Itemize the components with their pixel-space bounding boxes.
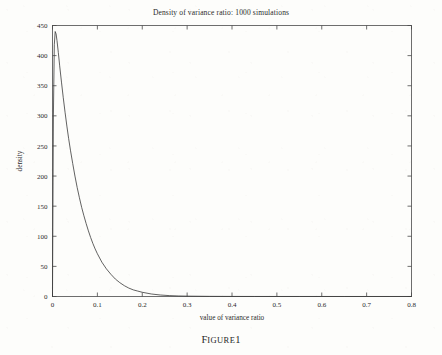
x-axis-title: value of variance ratio xyxy=(200,314,265,322)
x-tick-label: 0.2 xyxy=(138,301,147,309)
x-tick-label: 0.5 xyxy=(273,301,282,309)
y-tick-label: 250 xyxy=(37,143,48,151)
x-tick-label: 0 xyxy=(51,301,55,309)
x-axis-ticks xyxy=(53,26,412,297)
x-tick-label: 0.6 xyxy=(317,301,326,309)
figure-caption-word: IGURE xyxy=(207,335,235,345)
y-tick-label: 300 xyxy=(37,112,48,120)
figure-caption: FIGURE1 xyxy=(0,334,442,345)
x-tick-label: 0.8 xyxy=(407,301,416,309)
y-tick-label: 450 xyxy=(37,22,48,30)
y-tick-label: 400 xyxy=(37,52,48,60)
plot-box xyxy=(53,26,412,297)
figure-container: Density of variance ratio: 1000 simulati… xyxy=(0,0,442,355)
y-axis-title: density xyxy=(16,150,24,171)
y-axis-tick-labels: 050100150200250300350400450 xyxy=(37,22,48,301)
y-tick-label: 150 xyxy=(37,203,48,211)
y-tick-label: 0 xyxy=(44,293,48,301)
x-tick-label: 0.1 xyxy=(93,301,102,309)
y-tick-label: 350 xyxy=(37,82,48,90)
x-tick-label: 0.4 xyxy=(228,301,237,309)
y-tick-label: 50 xyxy=(41,263,49,271)
y-tick-label: 200 xyxy=(37,173,48,181)
x-tick-label: 0.7 xyxy=(362,301,371,309)
x-axis-tick-labels: 00.10.20.30.40.50.60.70.8 xyxy=(51,301,417,309)
x-tick-label: 0.3 xyxy=(183,301,192,309)
density-curve-path xyxy=(53,32,412,297)
figure-caption-number: 1 xyxy=(235,334,240,345)
y-axis-ticks xyxy=(53,26,412,297)
y-tick-label: 100 xyxy=(37,233,48,241)
plot-frame-rect xyxy=(53,26,412,297)
density-plot: 00.10.20.30.40.50.60.70.8 05010015020025… xyxy=(0,0,442,332)
